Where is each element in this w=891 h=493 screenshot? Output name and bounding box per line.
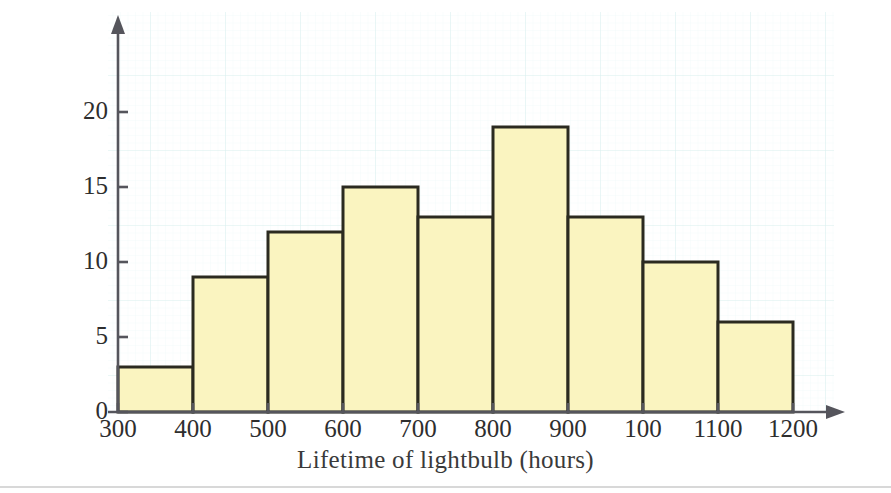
x-tick-label-1200: 1200 bbox=[753, 415, 833, 443]
histogram-bars bbox=[118, 127, 793, 412]
x-tick-label-700: 700 bbox=[378, 415, 458, 443]
y-axis-ticks bbox=[118, 112, 128, 412]
bar-800-900 bbox=[493, 127, 568, 412]
x-tick-label-1000: 100 bbox=[603, 415, 683, 443]
x-axis-ticks bbox=[118, 403, 793, 412]
y-tick-label-20: 20 bbox=[58, 97, 108, 125]
bar-600-700 bbox=[343, 187, 418, 412]
bar-1100-1200 bbox=[718, 322, 793, 412]
x-tick-label-600: 600 bbox=[303, 415, 383, 443]
bar-500-600 bbox=[268, 232, 343, 412]
y-tick-label-5: 5 bbox=[58, 322, 108, 350]
bar-300-400 bbox=[118, 367, 193, 412]
bar-900-1000 bbox=[568, 217, 643, 412]
page-bottom-rule bbox=[0, 486, 891, 488]
y-tick-label-10: 10 bbox=[58, 247, 108, 275]
x-tick-label-400: 400 bbox=[153, 415, 233, 443]
y-tick-label-15: 15 bbox=[58, 172, 108, 200]
bar-400-500 bbox=[193, 277, 268, 412]
bar-700-800 bbox=[418, 217, 493, 412]
x-tick-label-500: 500 bbox=[228, 415, 308, 443]
x-tick-label-1100: 1100 bbox=[678, 415, 758, 443]
y-axis bbox=[111, 15, 128, 412]
histogram-figure: 300 400 500 600 700 800 900 100 1100 120… bbox=[0, 0, 891, 493]
x-tick-label-800: 800 bbox=[453, 415, 533, 443]
y-tick-label-0: 0 bbox=[58, 397, 108, 425]
x-axis-title: Lifetime of lightbulb (hours) bbox=[0, 446, 891, 474]
x-tick-label-900: 900 bbox=[528, 415, 608, 443]
bar-1000-1100 bbox=[643, 262, 718, 412]
